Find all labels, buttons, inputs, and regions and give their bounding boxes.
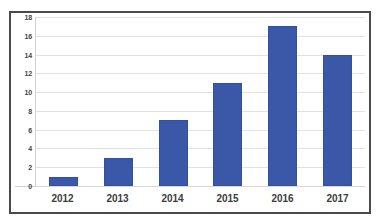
y-axis-tick: 2 bbox=[28, 164, 32, 171]
y-axis-tick: 8 bbox=[28, 107, 32, 114]
y-axis-tick: 6 bbox=[28, 126, 32, 133]
x-axis-label-2015: 2015 bbox=[200, 193, 255, 204]
x-axis-label-2016: 2016 bbox=[255, 193, 310, 204]
bar-slot bbox=[200, 17, 255, 186]
bar-2015[interactable] bbox=[213, 83, 242, 186]
plot-wrapper: 18 16 14 12 10 8 6 4 2 0 bbox=[15, 17, 365, 209]
plot-body: 18 16 14 12 10 8 6 4 2 0 bbox=[15, 17, 365, 186]
plot-area bbox=[35, 17, 365, 186]
bar-2014[interactable] bbox=[159, 120, 188, 186]
y-axis: 18 16 14 12 10 8 6 4 2 0 bbox=[15, 17, 35, 186]
x-axis-label-2014: 2014 bbox=[145, 193, 200, 204]
bars-layer bbox=[36, 17, 365, 186]
chart-frame: 18 16 14 12 10 8 6 4 2 0 bbox=[9, 11, 371, 214]
bar-slot bbox=[310, 17, 365, 186]
x-axis-label-2013: 2013 bbox=[90, 193, 145, 204]
y-axis-tick: 14 bbox=[25, 51, 32, 58]
bar-slot bbox=[255, 17, 310, 186]
y-axis-tick: 0 bbox=[28, 183, 32, 190]
bar-2013[interactable] bbox=[104, 158, 133, 186]
bar-slot bbox=[146, 17, 201, 186]
axis-baseline bbox=[36, 186, 365, 187]
bar-2017[interactable] bbox=[323, 55, 352, 186]
y-axis-tick: 12 bbox=[25, 70, 32, 77]
y-axis-tick: 10 bbox=[25, 89, 32, 96]
bar-2016[interactable] bbox=[268, 26, 297, 186]
bar-2012[interactable] bbox=[49, 177, 78, 186]
y-axis-tick: 4 bbox=[28, 145, 32, 152]
x-axis-label-2017: 2017 bbox=[310, 193, 365, 204]
y-axis-tick: 16 bbox=[25, 32, 32, 39]
bar-chart: 18 16 14 12 10 8 6 4 2 0 bbox=[0, 0, 380, 222]
bar-slot bbox=[36, 17, 91, 186]
x-axis: 2012 2013 2014 2015 2016 2017 bbox=[15, 186, 365, 209]
x-axis-spacer bbox=[15, 187, 35, 209]
x-axis-label-2012: 2012 bbox=[35, 193, 90, 204]
chart-inner: 18 16 14 12 10 8 6 4 2 0 bbox=[11, 13, 369, 212]
bar-slot bbox=[91, 17, 146, 186]
x-axis-labels: 2012 2013 2014 2015 2016 2017 bbox=[35, 187, 365, 209]
y-axis-tick: 18 bbox=[25, 14, 32, 21]
